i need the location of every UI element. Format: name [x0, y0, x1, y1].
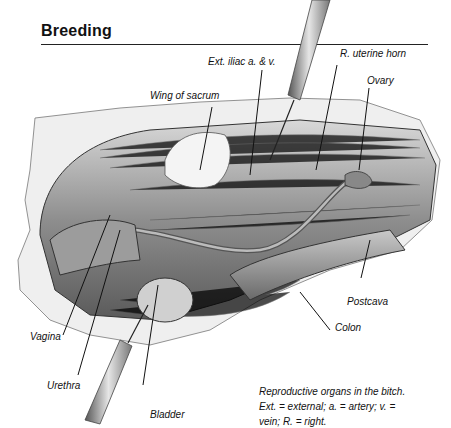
label-vagina: Vagina	[30, 331, 61, 342]
label-bladder: Bladder	[150, 409, 184, 420]
label-postcava: Postcava	[347, 296, 388, 307]
label-ovary: Ovary	[367, 75, 394, 86]
label-colon: Colon	[335, 322, 361, 333]
label-uterine-horn: R. uterine horn	[340, 48, 406, 59]
label-ext-iliac: Ext. iliac a. & v.	[208, 56, 276, 67]
label-urethra: Urethra	[47, 380, 80, 391]
figure-caption: Reproductive organs in the bitch. Ext. =…	[259, 384, 419, 428]
label-wing-of-sacrum: Wing of sacrum	[150, 90, 219, 101]
